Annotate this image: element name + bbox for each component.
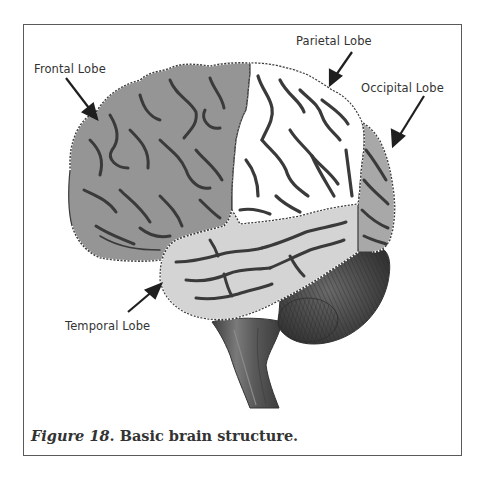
label-frontal-lobe: Frontal Lobe [34, 64, 106, 76]
label-temporal-lobe: Temporal Lobe [65, 321, 150, 333]
arrow-frontal [66, 78, 97, 119]
parietal-lobe [232, 63, 364, 224]
brainstem [212, 318, 282, 408]
figure-caption: Figure 18. Basic brain structure. [31, 429, 298, 444]
figure-number: Figure 18 [31, 427, 110, 444]
figure-caption-text: . Basic brain structure. [110, 427, 299, 444]
label-occipital-lobe: Occipital Lobe [361, 83, 444, 95]
arrow-occipital [392, 96, 424, 146]
label-parietal-lobe: Parietal Lobe [296, 36, 372, 48]
arrow-parietal [330, 52, 352, 85]
arrow-temporal [128, 284, 161, 312]
